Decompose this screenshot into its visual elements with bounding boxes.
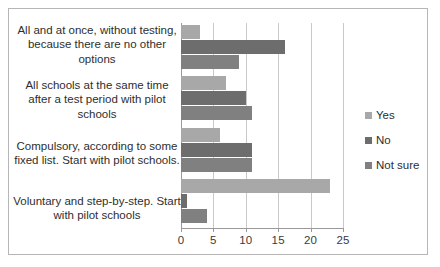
plot-area <box>181 23 343 228</box>
bar <box>181 209 207 223</box>
legend-item: Yes <box>365 109 425 121</box>
tick-label-5: 5 <box>198 234 228 246</box>
tick-mark-20 <box>311 228 312 232</box>
tick-mark-15 <box>278 228 279 232</box>
bar <box>181 128 220 142</box>
tick-mark-0 <box>181 228 182 232</box>
legend-swatch-icon <box>365 137 372 144</box>
bar <box>181 76 226 90</box>
bar <box>181 143 252 157</box>
tick-mark-5 <box>213 228 214 232</box>
category-label: Compulsory, according to some fixed list… <box>13 139 181 168</box>
bar <box>181 179 330 193</box>
legend-item: Not sure <box>365 159 425 171</box>
legend-swatch-icon <box>365 162 372 169</box>
bar <box>181 106 252 120</box>
tick-mark-25 <box>343 228 344 232</box>
x-axis-line <box>181 228 344 229</box>
bar <box>181 55 239 69</box>
legend-label: No <box>376 134 391 146</box>
gridline-25 <box>343 23 344 228</box>
chart-legend: YesNoNot sure <box>365 109 425 184</box>
legend-swatch-icon <box>365 112 372 119</box>
gridline-20 <box>311 23 312 228</box>
legend-label: Yes <box>376 109 395 121</box>
bar <box>181 91 246 105</box>
legend-item: No <box>365 134 425 146</box>
tick-label-20: 20 <box>296 234 326 246</box>
tick-label-10: 10 <box>231 234 261 246</box>
category-label: All and at once, without testing, becaus… <box>13 23 181 67</box>
chart-frame: All and at once, without testing, becaus… <box>8 8 428 255</box>
bar <box>181 194 187 208</box>
bar <box>181 158 252 172</box>
tick-mark-10 <box>246 228 247 232</box>
legend-label: Not sure <box>376 159 419 171</box>
bar <box>181 25 200 39</box>
bar <box>181 40 285 54</box>
tick-label-25: 25 <box>328 234 358 246</box>
tick-label-15: 15 <box>263 234 293 246</box>
category-label: Voluntary and step-by-step. Start with p… <box>13 194 181 223</box>
category-axis-labels: All and at once, without testing, becaus… <box>11 23 181 228</box>
category-label: All schools at the same time after a tes… <box>13 78 181 122</box>
tick-label-0: 0 <box>166 234 196 246</box>
